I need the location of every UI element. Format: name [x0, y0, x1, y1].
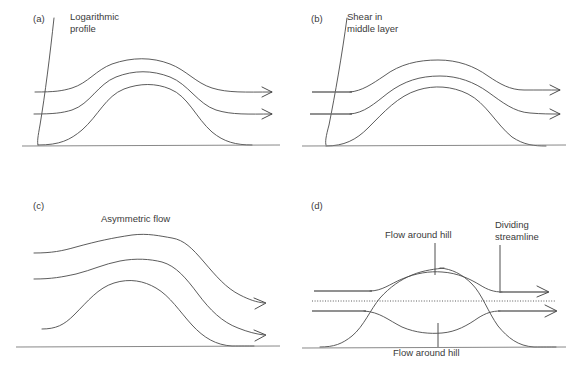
- panel-a-letter: (a): [33, 13, 45, 24]
- figure-container: (a) Logarithmic profile (b) Shear in mid…: [0, 0, 580, 366]
- panel-a: (a) Logarithmic profile: [22, 11, 280, 146]
- streamline-d-left-diagonal: [320, 268, 444, 347]
- panel-b-letter: (b): [311, 13, 323, 24]
- airflow-diagram: (a) Logarithmic profile (b) Shear in mid…: [0, 0, 580, 366]
- streamline-d-right-diagonal: [440, 268, 556, 347]
- streamline-a-middle: [34, 72, 272, 114]
- panel-b-label-line2: middle layer: [347, 23, 398, 34]
- panel-d-right-label-line1: Dividing: [495, 219, 529, 230]
- panel-b-label-line1: Shear in: [347, 11, 382, 22]
- panel-d-bottom-label: Flow around hill: [393, 347, 460, 358]
- streamline-a-upper: [35, 59, 272, 92]
- ground-line-a: [22, 145, 280, 146]
- ground-line-d: [302, 347, 566, 348]
- panel-a-label-line1: Logarithmic: [70, 11, 119, 22]
- logarithmic-profile-curve-b: [326, 18, 347, 145]
- panel-a-label-line2: profile: [70, 23, 96, 34]
- arrow-head-icon-c-middle: [254, 330, 266, 341]
- ground-line-b: [302, 145, 566, 146]
- panel-d: (d) Flow around hill Dividing streamline…: [302, 200, 566, 358]
- streamline-b-upper: [350, 60, 560, 92]
- panel-d-top-label: Flow around hill: [385, 229, 452, 240]
- streamline-b-lower: [326, 87, 546, 146]
- streamline-d-lower-arc: [364, 311, 500, 333]
- streamline-b-middle: [350, 76, 560, 114]
- panel-d-letter: (d): [311, 200, 323, 211]
- arrow-head-icon-c-upper: [254, 298, 266, 309]
- streamline-c-middle: [34, 259, 264, 335]
- panel-c-letter: (c): [33, 200, 44, 211]
- streamline-a-lower: [38, 85, 252, 146]
- panel-b: (b) Shear in middle layer: [302, 11, 566, 146]
- panel-c: (c) Asymmetric flow: [16, 200, 280, 347]
- ground-line-c: [16, 346, 280, 347]
- logarithmic-profile-curve: [38, 18, 54, 145]
- panel-d-right-label-line2: streamline: [495, 231, 539, 242]
- streamline-c-upper: [34, 234, 264, 303]
- panel-c-label: Asymmetric flow: [101, 213, 170, 224]
- streamline-c-lower: [42, 281, 254, 346]
